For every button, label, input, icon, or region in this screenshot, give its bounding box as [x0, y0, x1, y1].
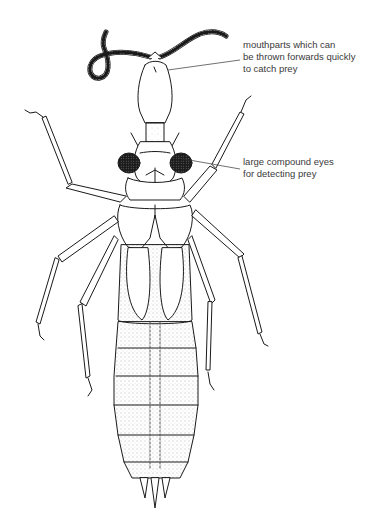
front-leg-right [184, 96, 251, 202]
leader-line-mouthparts [168, 60, 240, 70]
annotation-line: for detecting prey [243, 168, 334, 180]
middle-leg-left [36, 216, 118, 340]
compound-eye-right [170, 153, 192, 173]
front-leg-left [25, 110, 126, 202]
compound-eye-left [118, 153, 140, 173]
annotation-compound-eyes: large compound eyes for detecting prey [243, 156, 334, 180]
neck [146, 123, 164, 142]
annotation-mouthparts: mouthparts which can be thrown forwards … [243, 39, 355, 75]
annotation-line: large compound eyes [243, 156, 334, 168]
insect-illustration [0, 0, 374, 522]
abdomen [114, 322, 198, 478]
annotation-line: be thrown forwards quickly [243, 51, 355, 63]
cerci [140, 478, 170, 508]
hind-leg-left [78, 236, 118, 396]
annotation-line: mouthparts which can [243, 39, 355, 51]
annotation-line: to catch prey [243, 63, 355, 75]
